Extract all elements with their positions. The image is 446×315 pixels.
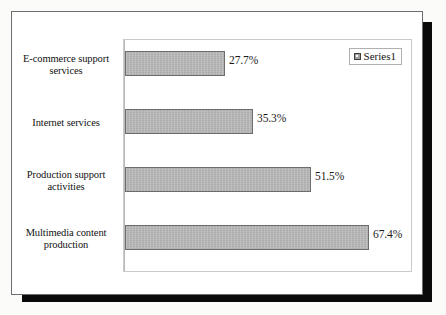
category-label-line: production: [16, 239, 116, 251]
plot-area: E-commerce support services 27.7% Intern…: [123, 39, 412, 272]
category-label-line: services: [16, 65, 116, 77]
bar-value-label: 51.5%: [315, 170, 344, 182]
bar-segment[interactable]: [125, 109, 253, 134]
bar-row: Multimedia content production 67.4%: [124, 214, 411, 272]
bar-segment[interactable]: [125, 51, 225, 76]
category-label: Production support activities: [16, 169, 116, 192]
figure-card: E-commerce support services 27.7% Intern…: [11, 11, 423, 295]
legend-series-label: Series1: [364, 50, 396, 62]
category-label-line: Internet services: [16, 117, 116, 129]
legend-square-icon: [354, 53, 361, 60]
bar-row: Production support activities 51.5%: [124, 156, 411, 214]
bar-segment[interactable]: [125, 225, 369, 250]
bar-row: Internet services 35.3%: [124, 98, 411, 156]
category-label-line: Production support: [16, 169, 116, 181]
bar-value-label: 35.3%: [257, 112, 286, 124]
scanned-page-background: E-commerce support services 27.7% Intern…: [0, 0, 446, 315]
category-label-line: E-commerce support: [16, 53, 116, 65]
bar-segment[interactable]: [125, 167, 311, 192]
chart-legend[interactable]: Series1: [349, 48, 402, 65]
category-label: Internet services: [16, 117, 116, 129]
bar-value-label: 27.7%: [229, 54, 258, 66]
category-label-line: activities: [16, 181, 116, 193]
category-label-line: Multimedia content: [16, 227, 116, 239]
category-label: E-commerce support services: [16, 53, 116, 76]
category-label: Multimedia content production: [16, 227, 116, 250]
bar-value-label: 67.4%: [373, 228, 402, 240]
